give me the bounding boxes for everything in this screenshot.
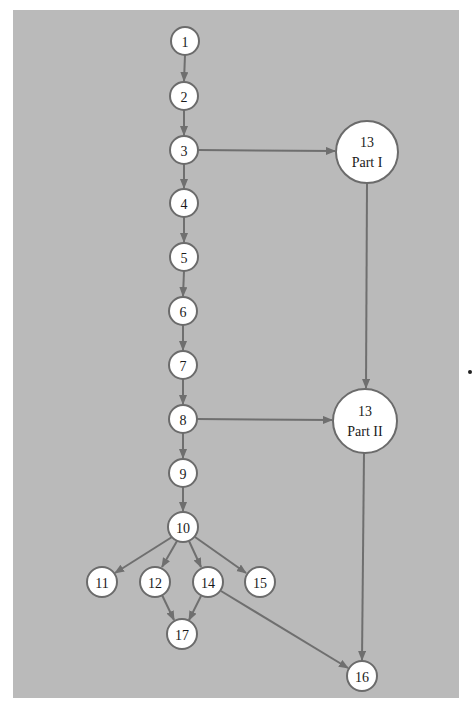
edge-10-12 xyxy=(162,541,177,567)
node-6: 6 xyxy=(169,297,197,325)
node-label: 13 xyxy=(358,404,372,419)
edge-13part2-16 xyxy=(362,453,364,660)
node-label: 12 xyxy=(148,576,162,591)
node-label: 1 xyxy=(182,35,189,50)
node-17: 17 xyxy=(167,619,197,649)
node-3: 3 xyxy=(170,136,198,164)
dependency-graph: 1 2 3 4 5 6 7 8 9 10 11 12 xyxy=(0,0,474,718)
margin-dot-mark xyxy=(468,370,472,374)
node-9: 9 xyxy=(169,459,197,487)
node-label: 17 xyxy=(175,628,189,643)
edge-14-16 xyxy=(221,591,348,668)
edge-5-6 xyxy=(183,271,184,296)
edge-3-13part1 xyxy=(198,150,335,151)
edge-1-2 xyxy=(184,55,185,81)
node-15: 15 xyxy=(245,567,275,597)
node-label: 7 xyxy=(180,359,187,374)
node-12: 12 xyxy=(140,567,170,597)
node-sublabel: Part II xyxy=(347,424,383,439)
edge-10-14 xyxy=(189,541,201,567)
node-label: 6 xyxy=(180,305,187,320)
edge-12-17 xyxy=(162,595,174,620)
node-16: 16 xyxy=(347,661,377,691)
node-1: 1 xyxy=(171,27,199,55)
node-11: 11 xyxy=(87,567,117,597)
node-label: 2 xyxy=(181,90,188,105)
node-label: 5 xyxy=(181,251,188,266)
node-10: 10 xyxy=(168,512,198,542)
node-label: 15 xyxy=(253,576,267,591)
node-label: 16 xyxy=(355,670,369,685)
node-label: 13 xyxy=(360,135,374,150)
node-7: 7 xyxy=(169,351,197,379)
edge-10-11 xyxy=(115,537,172,573)
edge-8-13part2 xyxy=(197,419,332,420)
node-14: 14 xyxy=(193,567,223,597)
node-label: 14 xyxy=(201,576,215,591)
node-label: 8 xyxy=(180,413,187,428)
node-label: 4 xyxy=(181,197,188,212)
node-5: 5 xyxy=(170,243,198,271)
node-label: 10 xyxy=(176,521,190,536)
node-13-part-1: 13 Part I xyxy=(336,121,398,183)
node-4: 4 xyxy=(170,189,198,217)
node-label: 9 xyxy=(180,467,187,482)
node-label: 11 xyxy=(95,576,108,591)
edge-13part1-13part2 xyxy=(366,183,367,388)
node-13-part-2: 13 Part II xyxy=(333,389,397,453)
node-8: 8 xyxy=(169,405,197,433)
node-2: 2 xyxy=(170,82,198,110)
node-sublabel: Part I xyxy=(352,155,383,170)
edge-14-17 xyxy=(189,596,201,620)
node-label: 3 xyxy=(181,144,188,159)
